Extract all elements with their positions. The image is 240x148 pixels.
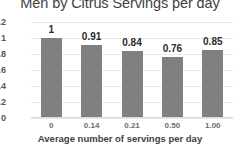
x-axis-tick-label: 0.50	[150, 121, 194, 130]
x-axis-tick-label: 0.14	[70, 121, 114, 130]
bar-value-label: 1	[31, 25, 71, 35]
y-axis-tick-label: 0	[0, 114, 6, 123]
x-axis-tick-label: 0	[29, 121, 73, 130]
bar-value-label: 0.91	[72, 32, 112, 42]
bar[interactable]	[81, 45, 102, 118]
x-axis-tick-label: 1.00	[191, 121, 235, 130]
chart-title: Men by Citrus Servings per day	[0, 0, 240, 11]
gridline	[31, 118, 233, 119]
y-axis-tick-label: 0.8	[0, 50, 6, 59]
y-axis-tick-label: 0.4	[0, 82, 6, 91]
bar-value-label: 0.76	[152, 44, 192, 54]
x-axis-title: Average number of servings per day	[0, 133, 240, 144]
y-axis-tick-label: 0.6	[0, 66, 6, 75]
gridline	[31, 22, 233, 23]
y-axis-tick-label: 0.2	[0, 98, 6, 107]
bar[interactable]	[122, 51, 143, 118]
bar[interactable]	[41, 38, 62, 118]
y-axis-tick-label: 1.2	[0, 18, 6, 27]
bar-value-label: 0.85	[193, 37, 233, 47]
bar[interactable]	[202, 50, 223, 118]
x-axis-tick-label: 0.21	[110, 121, 154, 130]
y-axis-tick-label: 1	[0, 34, 6, 43]
bar-chart: Men by Citrus Servings per day Average n…	[0, 0, 240, 148]
x-axis-line	[31, 117, 233, 118]
bar[interactable]	[162, 57, 183, 118]
bar-value-label: 0.84	[112, 38, 152, 48]
